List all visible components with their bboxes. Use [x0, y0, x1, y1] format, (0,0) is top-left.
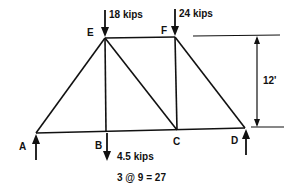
arrow-up-icon-d: [242, 129, 250, 139]
node-label-b: B: [95, 141, 102, 151]
node-label-d: D: [231, 136, 238, 146]
load-label-b: 4.5 kips: [117, 152, 154, 162]
member-f-c: [175, 37, 177, 130]
dim-arrow-up-icon: [254, 36, 260, 44]
node-label-a: A: [19, 142, 26, 152]
arrow-down-icon-b: [103, 151, 111, 161]
dim-top-reference-line: [193, 35, 280, 36]
node-label-f: F: [161, 26, 167, 36]
member-f-d: [175, 37, 245, 128]
node-label-c: C: [173, 137, 180, 147]
load-label-e: 18 kips: [109, 10, 143, 20]
arrow-down-icon-e: [101, 27, 109, 37]
member-e-b: [105, 38, 106, 132]
truss-members: [36, 37, 245, 133]
arrow-up-icon-a: [32, 134, 40, 144]
node-label-e: E: [87, 28, 94, 38]
dimension-span-label: 3 @ 9 = 27: [117, 173, 166, 183]
member-a-e: [36, 38, 105, 133]
member-bottom-chord: [36, 128, 245, 133]
member-e-c: [105, 38, 177, 130]
arrow-down-icon-f: [171, 26, 179, 36]
load-label-f: 24 kips: [179, 9, 213, 19]
dim-arrow-down-icon: [254, 119, 260, 127]
member-e-f: [105, 37, 175, 38]
dimension-height-label: 12': [263, 76, 277, 86]
truss-diagram: [0, 0, 304, 191]
